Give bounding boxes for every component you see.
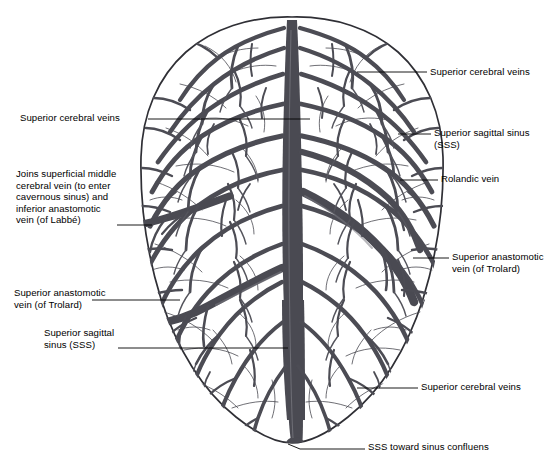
- label-superior-cerebral-veins-left: Superior cerebral veins: [20, 112, 120, 124]
- label-superior-sagittal-sinus-right: Superior sagittal sinus (SSS): [434, 127, 530, 150]
- label-superior-anastomotic-vein-trolard-left: Superior anastomotic vein (of Trolard): [14, 287, 106, 310]
- anatomical-figure: Superior cerebral veins Superior cerebra…: [0, 0, 555, 458]
- label-superior-sagittal-sinus-left: Superior sagittal sinus (SSS): [44, 327, 114, 350]
- leader-sss-toward-sinus-confluens: [288, 444, 365, 449]
- label-superior-cerebral-veins-top-right: Superior cerebral veins: [430, 66, 530, 78]
- label-rolandic-vein: Rolandic vein: [441, 173, 499, 185]
- label-sss-toward-sinus-confluens: SSS toward sinus confluens: [368, 441, 489, 453]
- label-superior-anastomotic-vein-trolard-right: Superior anastomotic vein (of Trolard): [452, 251, 544, 274]
- label-labbe-complex: Joins superficial middle cerebral vein (…: [16, 168, 116, 226]
- label-superior-cerebral-veins-bottom-right: Superior cerebral veins: [421, 381, 521, 393]
